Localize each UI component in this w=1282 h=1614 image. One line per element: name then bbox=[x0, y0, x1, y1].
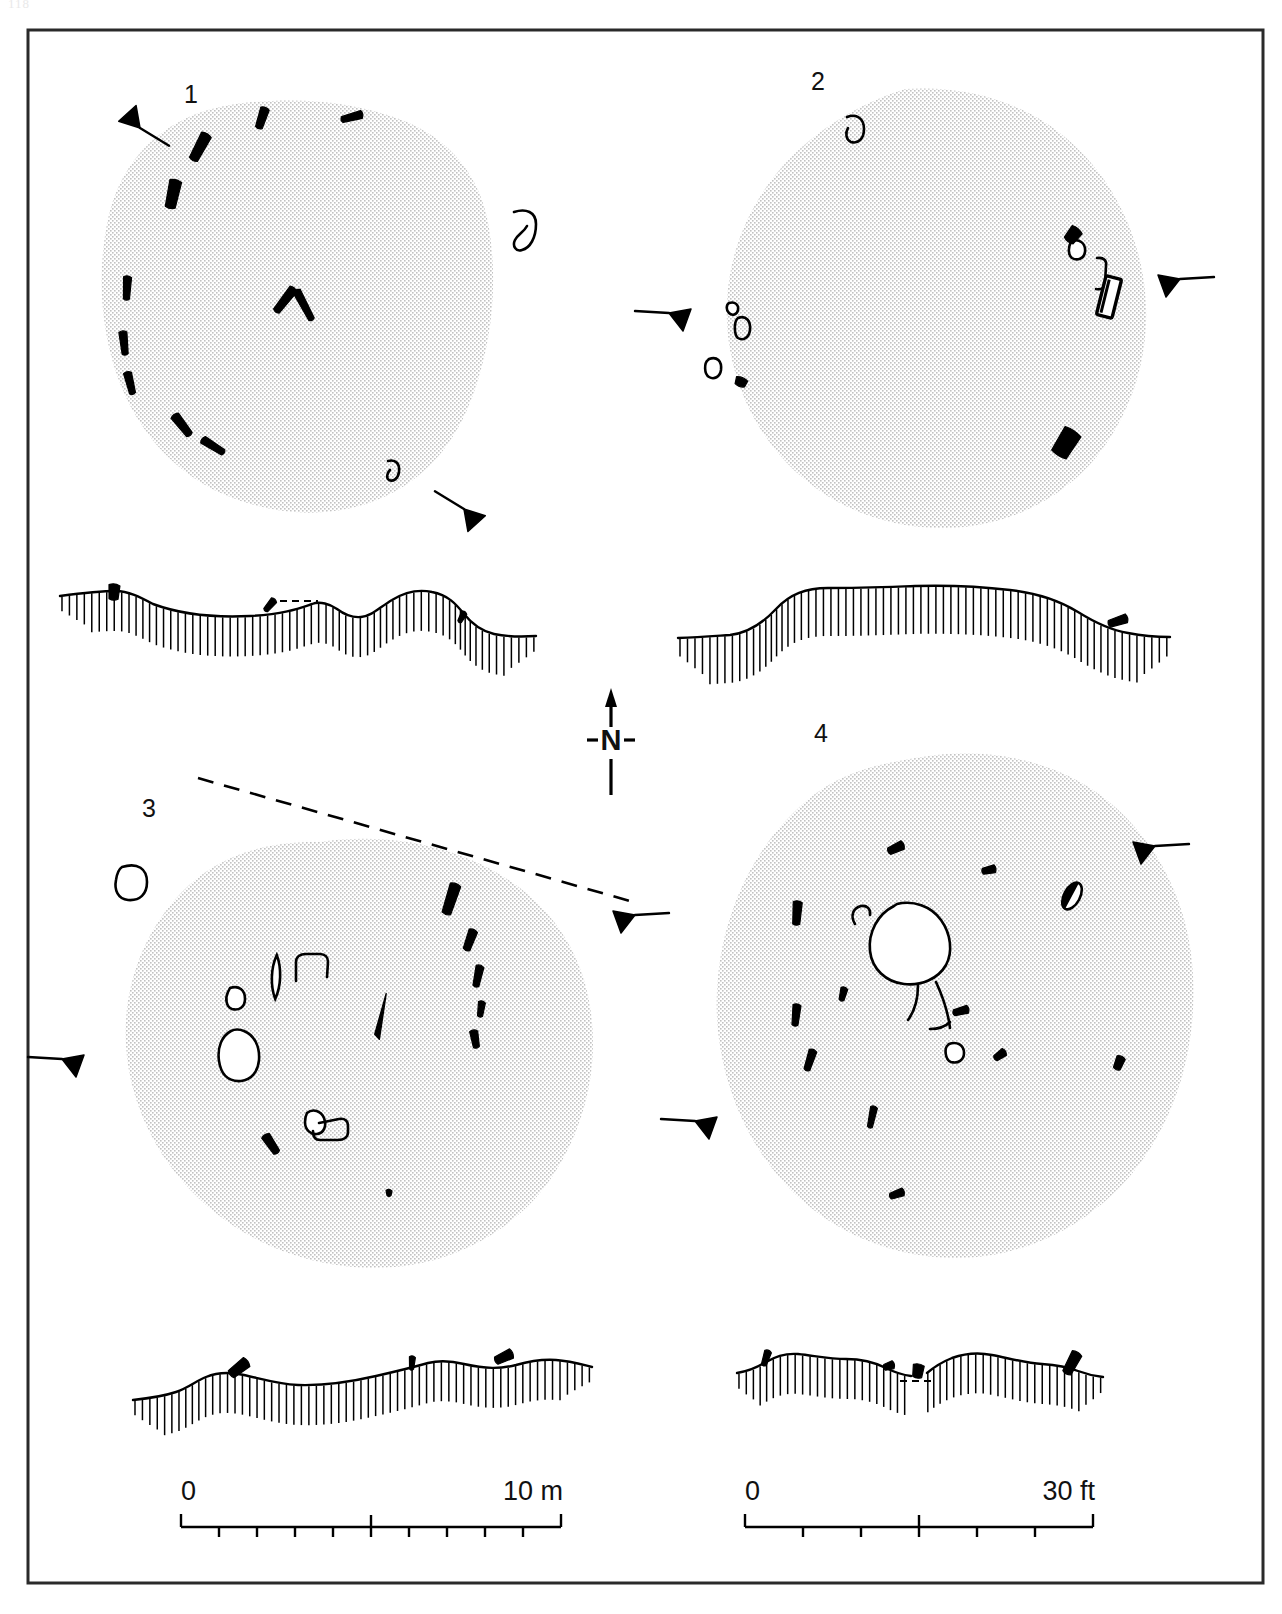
hollow-stone bbox=[946, 1043, 964, 1063]
scale-imperial-right-label: 30 ft bbox=[1042, 1476, 1095, 1506]
north-label: N bbox=[601, 724, 622, 756]
plan-2-label: 2 bbox=[811, 67, 825, 95]
stone-body bbox=[108, 583, 120, 600]
section-marker-tail bbox=[661, 1119, 695, 1121]
section-marker-head bbox=[1158, 275, 1180, 297]
section-marker bbox=[426, 490, 486, 536]
cist-chamber bbox=[870, 903, 950, 985]
section-marker-head bbox=[695, 1117, 717, 1139]
scale-metric-left-label: 0 bbox=[181, 1476, 196, 1506]
hachure-group bbox=[680, 587, 1167, 685]
stone bbox=[122, 276, 131, 301]
plan-4-label: 4 bbox=[814, 719, 828, 747]
cairn-body bbox=[102, 100, 494, 512]
profile-stone bbox=[108, 583, 120, 600]
section-marker bbox=[1133, 842, 1189, 864]
profile-stone bbox=[1107, 614, 1129, 629]
hachure-group bbox=[135, 1361, 589, 1435]
section-marker bbox=[635, 309, 691, 331]
section-marker-tail bbox=[635, 311, 669, 313]
stone-body bbox=[760, 1349, 772, 1367]
scale-bar-metric: 010 m bbox=[181, 1476, 563, 1537]
section-marker-head bbox=[119, 102, 149, 132]
hollow-stone bbox=[705, 358, 721, 378]
section-marker-tail bbox=[1180, 277, 1214, 279]
north-arrow-group: N bbox=[587, 688, 635, 795]
section-marker-head bbox=[456, 505, 486, 535]
profile-stone bbox=[493, 1348, 515, 1365]
section-marker bbox=[613, 911, 669, 933]
hollow-stone bbox=[514, 211, 536, 251]
plans-layer: 1234 bbox=[28, 67, 1214, 1268]
scale-bar-imperial: 030 ft bbox=[745, 1476, 1095, 1537]
stone-body bbox=[912, 1363, 925, 1379]
section-marker-head bbox=[62, 1055, 84, 1077]
cairn-body bbox=[727, 88, 1146, 528]
scale-bars-layer: 010 m030 ft bbox=[181, 1476, 1095, 1537]
stone-body bbox=[493, 1348, 515, 1365]
hollow-stone bbox=[727, 302, 738, 314]
plan-2: 2 bbox=[635, 67, 1214, 528]
stone-body bbox=[409, 1356, 416, 1371]
section-marker-tail bbox=[1155, 844, 1189, 846]
page-number: 118 bbox=[8, 0, 30, 12]
terrain-line bbox=[678, 586, 1170, 638]
section-marker-tail bbox=[434, 491, 465, 509]
profile-4 bbox=[737, 1349, 1103, 1415]
profile-stone bbox=[262, 597, 277, 613]
scale-metric-right-label: 10 m bbox=[503, 1476, 563, 1506]
stone-body bbox=[882, 1360, 895, 1371]
section-marker-head bbox=[669, 309, 691, 331]
hollow-stone bbox=[219, 1030, 260, 1082]
stone-body bbox=[122, 276, 131, 301]
plan-1: 1 bbox=[102, 80, 536, 535]
cairn-body bbox=[717, 754, 1194, 1259]
north-arrow-head-icon bbox=[605, 688, 617, 707]
scale-imperial-left-label: 0 bbox=[745, 1476, 760, 1506]
hollow-stone bbox=[116, 865, 148, 900]
cairn-body bbox=[126, 839, 593, 1268]
section-marker bbox=[1158, 275, 1214, 297]
section-marker-head bbox=[613, 911, 635, 933]
plan-3: 3 bbox=[28, 778, 669, 1268]
stone bbox=[386, 1189, 392, 1196]
section-marker-tail bbox=[28, 1057, 62, 1059]
section-marker bbox=[28, 1055, 84, 1077]
hachure-group bbox=[62, 592, 534, 676]
hollow-stone bbox=[226, 987, 245, 1009]
stone-body bbox=[262, 597, 277, 613]
plan-1-label: 1 bbox=[184, 80, 198, 108]
profile-3 bbox=[133, 1348, 592, 1435]
profile-1 bbox=[60, 583, 536, 675]
profile-stone bbox=[882, 1360, 895, 1371]
section-marker-tail bbox=[635, 913, 669, 915]
figure-root: 118 1234 N 010 m030 ft bbox=[0, 0, 1282, 1614]
plan-4: 4 bbox=[661, 719, 1193, 1258]
plan-3-label: 3 bbox=[142, 794, 156, 822]
profile-stone bbox=[912, 1363, 925, 1379]
section-marker bbox=[661, 1117, 717, 1139]
stone-body bbox=[1107, 614, 1129, 629]
stone-body bbox=[386, 1189, 392, 1196]
profile-2 bbox=[678, 586, 1170, 685]
site-plan-figure: 1234 N 010 m030 ft bbox=[0, 0, 1282, 1614]
profile-stone bbox=[409, 1356, 416, 1371]
profile-stone bbox=[760, 1349, 772, 1367]
